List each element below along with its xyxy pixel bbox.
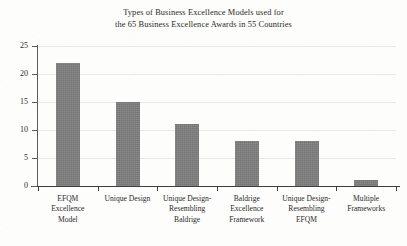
- bar: [354, 180, 378, 186]
- y-axis-tick-mark: [32, 130, 37, 131]
- x-axis-line: [31, 186, 400, 187]
- y-axis-tick-label: 20: [6, 69, 28, 78]
- gridline: [38, 158, 396, 159]
- gridline: [38, 130, 396, 131]
- chart-title: Types of Business Excellence Models used…: [0, 7, 407, 30]
- bar: [235, 141, 259, 186]
- x-axis-category-label: Unique Design-ResemblingBaldrige: [157, 194, 217, 225]
- x-axis-category-label-line: Excellence: [38, 204, 98, 214]
- y-axis-tick-mark: [32, 46, 37, 47]
- x-axis-category-label: EFQMExcellenceModel: [38, 194, 98, 225]
- bar: [116, 102, 140, 186]
- x-axis-tick-mark: [38, 187, 39, 191]
- gridline: [38, 46, 396, 47]
- y-axis-tick-label: 5: [6, 153, 28, 162]
- bar: [56, 63, 80, 186]
- y-axis-tick-mark: [32, 102, 37, 103]
- y-axis-tick-label: 15: [6, 97, 28, 106]
- x-axis-category-label-line: Resembling: [277, 204, 337, 214]
- bar-chart-figure: Types of Business Excellence Models used…: [0, 0, 407, 246]
- y-axis-tick-mark: [32, 74, 37, 75]
- bar: [175, 124, 199, 186]
- x-axis-category-label: BaldrigeExcellenceFramework: [217, 194, 277, 225]
- x-axis-category-label-line: Framework: [217, 215, 277, 225]
- x-axis-category-label: Unique Design: [98, 194, 158, 204]
- gridline: [38, 74, 396, 75]
- x-axis-category-label-line: Excellence: [217, 204, 277, 214]
- y-axis-tick-label: 25: [6, 41, 28, 50]
- y-axis-tick-mark: [32, 186, 37, 187]
- x-axis-category-label-line: Unique Design-: [277, 194, 337, 204]
- x-axis-category-label-line: Multiple: [336, 194, 396, 204]
- x-axis-category-label-line: Unique Design: [98, 194, 158, 204]
- x-axis-category-label-line: Baldrige: [217, 194, 277, 204]
- x-axis-category-label-line: EFQM: [38, 194, 98, 204]
- x-axis-category-label-line: EFQM: [277, 215, 337, 225]
- chart-title-line-1: Types of Business Excellence Models used…: [0, 7, 407, 19]
- x-axis-category-label: Unique Design-ResemblingEFQM: [277, 194, 337, 225]
- x-axis-category-label-line: Frameworks: [336, 204, 396, 214]
- y-axis-tick-mark: [32, 158, 37, 159]
- y-axis-tick-label: 0: [6, 181, 28, 190]
- bar: [295, 141, 319, 186]
- chart-title-line-2: the 65 Business Excellence Awards in 55 …: [0, 19, 407, 31]
- x-axis-category-label-line: Resembling: [157, 204, 217, 214]
- gridline: [38, 102, 396, 103]
- x-axis-tick-mark: [277, 187, 278, 191]
- x-axis-tick-mark: [336, 187, 337, 191]
- x-axis-tick-mark: [396, 187, 397, 191]
- x-axis-category-label-line: Baldrige: [157, 215, 217, 225]
- plot-area: [38, 46, 396, 186]
- x-axis-category-label-line: Unique Design-: [157, 194, 217, 204]
- x-axis-category-label-line: Model: [38, 215, 98, 225]
- x-axis-tick-mark: [157, 187, 158, 191]
- x-axis-tick-mark: [98, 187, 99, 191]
- x-axis-category-label: MultipleFrameworks: [336, 194, 396, 215]
- x-axis-tick-mark: [217, 187, 218, 191]
- y-axis-tick-label: 10: [6, 125, 28, 134]
